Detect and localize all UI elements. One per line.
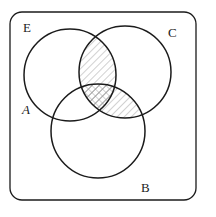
label-set-C: C [168,26,177,39]
label-set-A: A [22,103,30,116]
venn-diagram-canvas [0,0,216,217]
venn-diagram-figure: E C A B [0,0,216,217]
label-universe-E: E [23,21,31,34]
label-set-B: B [141,181,150,194]
